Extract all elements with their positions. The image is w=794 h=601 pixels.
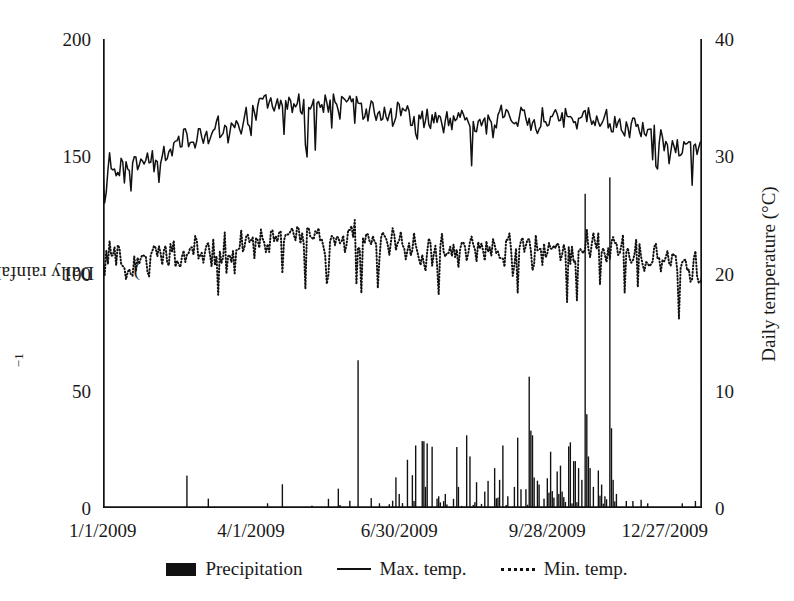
precipitation-bar — [446, 504, 447, 508]
precipitation-bar — [413, 501, 414, 508]
precipitation-bar — [538, 485, 539, 508]
precipitation-bar — [601, 485, 602, 508]
precipitation-bar — [557, 471, 558, 508]
precipitation-bar — [379, 503, 380, 508]
precipitation-bar — [339, 505, 340, 508]
y-axis-left-tick-100: 100 — [33, 264, 91, 283]
precipitation-bar — [443, 501, 444, 508]
x-axis-tick-0: 1/1/2009 — [69, 521, 137, 540]
legend-item-dotted-line[interactable]: Min. temp. — [501, 558, 628, 580]
precipitation-bar — [525, 489, 526, 508]
precipitation-bar — [328, 499, 329, 508]
precipitation-bars — [186, 177, 696, 508]
y-axis-right-tick-30: 30 — [715, 147, 775, 166]
y-axis-left-label-exponent: −1 — [11, 354, 26, 368]
precipitation-bar — [563, 497, 564, 508]
precipitation-bar — [208, 499, 209, 508]
precipitation-bar — [466, 435, 467, 508]
precipitation-bar — [514, 487, 515, 508]
precipitation-bar — [632, 501, 633, 508]
precipitation-bar — [357, 360, 358, 508]
precipitation-bar — [550, 452, 551, 508]
precipitation-bar — [440, 502, 441, 508]
precipitation-bar — [560, 466, 561, 508]
y-axis-right-tick-40: 40 — [715, 30, 775, 49]
x-axis-tick-4: 12/27/2009 — [621, 521, 708, 540]
y-axis-left-tick-0: 0 — [33, 499, 91, 518]
precipitation-bar — [494, 468, 495, 508]
precipitation-bar — [476, 482, 477, 508]
precipitation-bar — [640, 500, 641, 508]
precipitation-bar — [561, 492, 562, 508]
precipitation-bar — [399, 494, 400, 508]
precipitation-bar — [576, 502, 577, 508]
precipitation-bar — [568, 446, 569, 508]
precipitation-bar — [338, 489, 339, 508]
legend-dotted-line-icon — [501, 568, 535, 571]
precipitation-bar — [408, 507, 409, 508]
precipitation-bar — [469, 456, 470, 508]
x-axis-tick-3: 9/28/2009 — [509, 521, 586, 540]
precipitation-bar — [517, 438, 518, 508]
precipitation-bar — [581, 480, 582, 508]
precipitation-bar — [593, 487, 594, 508]
precipitation-bar — [647, 503, 648, 508]
legend-item-filled-bar[interactable]: Precipitation — [166, 558, 302, 580]
legend-item-solid-line[interactable]: Max. temp. — [337, 558, 467, 580]
precipitation-bar — [471, 507, 472, 508]
precipitation-bar — [387, 507, 388, 508]
precipitation-bar — [502, 445, 503, 508]
precipitation-bar — [588, 456, 589, 508]
precipitation-bar — [548, 493, 549, 508]
precipitation-bar — [589, 468, 590, 508]
precipitation-bar — [456, 447, 457, 508]
precipitation-bar — [604, 496, 605, 508]
chart-legend: PrecipitationMax. temp.Min. temp. — [0, 558, 794, 580]
precipitation-bar — [543, 499, 544, 508]
precipitation-bar — [603, 504, 604, 508]
chart-canvas — [103, 39, 702, 508]
precipitation-bar — [558, 494, 559, 508]
precipitation-bar — [609, 177, 610, 508]
precipitation-bar — [395, 477, 396, 508]
precipitation-bar — [426, 443, 427, 508]
precipitation-bar — [267, 503, 268, 508]
precipitation-bar — [497, 498, 498, 508]
precipitation-bar — [573, 461, 574, 508]
precipitation-bar — [464, 507, 465, 508]
precipitation-bar — [537, 481, 538, 508]
legend-bar-swatch-icon — [166, 563, 196, 576]
precipitation-bar — [571, 503, 572, 508]
precipitation-bar — [586, 414, 587, 508]
precipitation-bar — [520, 489, 521, 508]
precipitation-bar — [481, 504, 482, 508]
x-axis-tick-2: 6/30/2009 — [361, 521, 438, 540]
precipitation-bar — [512, 507, 513, 508]
x-axis-tick-1: 4/1/2009 — [217, 521, 285, 540]
precipitation-bar — [402, 503, 403, 508]
precipitation-bar — [580, 507, 581, 508]
precipitation-bar — [484, 492, 485, 508]
precipitation-bar — [614, 501, 615, 508]
precipitation-bar — [695, 501, 696, 508]
y-axis-right-tick-10: 10 — [715, 381, 775, 400]
y-axis-left-tick-150: 150 — [33, 147, 91, 166]
min-temp-line — [103, 220, 702, 319]
legend-label: Min. temp. — [544, 558, 628, 580]
precipitation-bar — [282, 484, 283, 508]
climate-figure: Daily rainfall (mm · day−1) Daily temper… — [0, 0, 794, 601]
precipitation-bar — [499, 480, 500, 508]
precipitation-bar — [436, 499, 437, 508]
precipitation-bar — [598, 470, 599, 508]
precipitation-bar — [616, 494, 617, 508]
max-temp-line — [103, 94, 702, 203]
precipitation-bar — [461, 506, 462, 508]
precipitation-bar — [384, 507, 385, 508]
precipitation-bar — [474, 502, 475, 508]
precipitation-bar — [422, 441, 423, 508]
precipitation-bar — [552, 491, 553, 508]
precipitation-bar — [392, 501, 393, 508]
precipitation-bar — [389, 504, 390, 508]
precipitation-bar — [407, 460, 408, 508]
plot-area — [103, 39, 702, 508]
